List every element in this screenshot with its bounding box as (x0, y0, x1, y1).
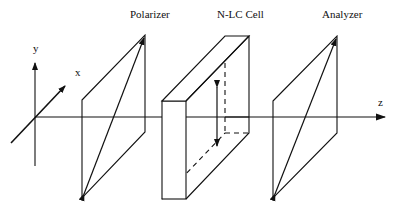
x-axis-label: x (75, 66, 81, 78)
polarizer-transmission-axis (110, 36, 145, 169)
polarizer-label: Polarizer (130, 8, 170, 20)
x-axis (11, 86, 65, 143)
nlc-cell (162, 36, 249, 199)
cell-label: N-LC Cell (217, 8, 264, 20)
z-axis-label: z (378, 96, 383, 108)
coordinate-axes (11, 63, 65, 166)
optical-setup-diagram: y x z Polarizer N-LC Cell Analyzer (0, 0, 393, 209)
analyzer-label: Analyzer (322, 8, 363, 20)
y-axis-label: y (33, 42, 39, 54)
